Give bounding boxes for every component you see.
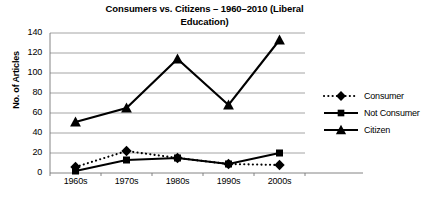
legend-label: Consumer [364,91,404,101]
data-point-1960s [72,168,79,175]
data-point-1970s [121,146,131,156]
legend-label: Citizen [364,125,390,135]
plot-area [0,0,432,212]
data-point-1980s [174,155,181,162]
gridlines [50,33,305,153]
data-point-1980s [172,54,183,64]
series-line [76,40,280,122]
data-point-1990s [225,161,232,168]
legend-marker-square-icon [322,105,360,121]
legend-marker-triangle-icon [322,122,360,138]
data-point-1970s [123,157,130,164]
data-point-2000s [274,35,285,45]
legend-marker-diamond-icon [322,88,360,104]
legend-label: Not Consumer [364,108,420,118]
data-series-layer [70,35,285,175]
data-point-2000s [274,160,284,170]
chart-container: Consumers vs. Citizens – 1960–2010 (Libe… [0,0,432,212]
axis-lines [50,33,363,176]
data-point-2000s [276,150,283,157]
